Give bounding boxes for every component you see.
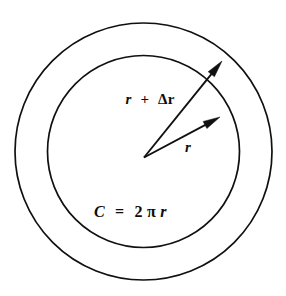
circumference-label-coefficient: 2	[135, 203, 143, 220]
circumference-label-equals: =	[115, 203, 124, 220]
outer-radius-label-plus: +	[140, 91, 149, 107]
circumference-label-r: r	[160, 203, 167, 220]
circumference-label-pi: π	[147, 203, 156, 220]
inner-radius-label: r	[185, 139, 191, 155]
annulus-radius-diagram: r + Δr r C = 2 π r	[0, 0, 286, 296]
outer-radius-label: r + Δr	[125, 91, 174, 107]
diagram-canvas: r + Δr r C = 2 π r	[0, 0, 286, 296]
outer-radius-label-delta-r: Δr	[158, 91, 175, 107]
outer-radius-label-r: r	[125, 91, 131, 107]
circumference-label-c: C	[94, 203, 105, 220]
figure-background	[0, 0, 286, 296]
